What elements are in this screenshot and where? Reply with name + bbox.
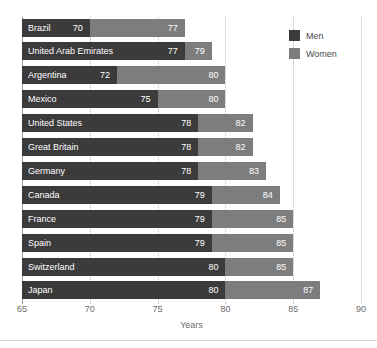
value-label-men: 77 xyxy=(168,42,178,60)
bar-row[interactable]: Argentina7280 xyxy=(22,65,361,89)
bar-stack: Spain7985 xyxy=(22,234,361,252)
bar-row[interactable]: Switzerland8085 xyxy=(22,256,361,280)
country-label: Spain xyxy=(28,234,51,252)
bar-stack: Canada7984 xyxy=(22,186,361,204)
legend-item-men[interactable]: Men xyxy=(289,28,359,43)
country-label: Japan xyxy=(28,281,53,299)
value-label-women: 87 xyxy=(303,281,313,299)
x-tick-label: 70 xyxy=(85,304,95,314)
country-label: Great Britain xyxy=(28,138,79,156)
value-label-men: 79 xyxy=(195,210,205,228)
bar-stack: United States7882 xyxy=(22,114,361,132)
value-label-women: 85 xyxy=(276,258,286,276)
value-label-men: 79 xyxy=(195,234,205,252)
value-label-women: 82 xyxy=(236,138,246,156)
value-label-women: 84 xyxy=(263,186,273,204)
bar-stack: Great Britain7882 xyxy=(22,138,361,156)
bar-chart: Brazil7077United Arab Emirates7779Argent… xyxy=(0,0,377,348)
gridline-90 xyxy=(361,17,362,304)
bar-row[interactable]: Germany7883 xyxy=(22,160,361,184)
value-label-women: 83 xyxy=(249,162,259,180)
legend-swatch-women xyxy=(289,48,300,59)
bar-row[interactable]: France7985 xyxy=(22,208,361,232)
bar-stack: Switzerland8085 xyxy=(22,258,361,276)
bar-stack: Argentina7280 xyxy=(22,66,361,84)
chart-legend: Men Women xyxy=(289,28,359,64)
value-label-women: 82 xyxy=(236,114,246,132)
value-label-men: 80 xyxy=(208,281,218,299)
bar-row[interactable]: Mexico7580 xyxy=(22,89,361,113)
x-tick-label: 75 xyxy=(153,304,163,314)
value-label-women: 77 xyxy=(168,19,178,37)
country-label: Germany xyxy=(28,162,65,180)
bottom-rule xyxy=(0,340,377,341)
bar-row[interactable]: Canada7984 xyxy=(22,184,361,208)
value-label-women: 85 xyxy=(276,234,286,252)
bar-row[interactable]: United States7882 xyxy=(22,113,361,137)
x-tick-label: 65 xyxy=(17,304,27,314)
value-label-men: 70 xyxy=(73,19,83,37)
bar-stack: Mexico7580 xyxy=(22,90,361,108)
value-label-men: 78 xyxy=(181,162,191,180)
legend-label-women: Women xyxy=(306,49,337,59)
bar-stack: Germany7883 xyxy=(22,162,361,180)
x-axis-title: Years xyxy=(22,320,361,330)
value-label-women: 80 xyxy=(208,66,218,84)
legend-item-women[interactable]: Women xyxy=(289,46,359,61)
bar-row[interactable]: Japan8087 xyxy=(22,280,361,304)
country-label: Canada xyxy=(28,186,60,204)
bar-row[interactable]: Great Britain7882 xyxy=(22,137,361,161)
value-label-women: 85 xyxy=(276,210,286,228)
value-label-men: 79 xyxy=(195,186,205,204)
country-label: United States xyxy=(28,114,82,132)
value-label-men: 75 xyxy=(141,90,151,108)
country-label: France xyxy=(28,210,56,228)
value-label-women: 79 xyxy=(195,42,205,60)
bar-stack: Japan8087 xyxy=(22,281,361,299)
legend-label-men: Men xyxy=(306,31,324,41)
country-label: Argentina xyxy=(28,66,67,84)
bar-stack: France7985 xyxy=(22,210,361,228)
x-tick-label: 85 xyxy=(288,304,298,314)
bar-row[interactable]: Spain7985 xyxy=(22,232,361,256)
value-label-men: 78 xyxy=(181,114,191,132)
x-tick-label: 80 xyxy=(220,304,230,314)
value-label-men: 72 xyxy=(100,66,110,84)
country-label: Mexico xyxy=(28,90,57,108)
value-label-men: 78 xyxy=(181,138,191,156)
value-label-men: 80 xyxy=(208,258,218,276)
country-label: Brazil xyxy=(28,19,51,37)
value-label-women: 80 xyxy=(208,90,218,108)
x-tick-label: 90 xyxy=(356,304,366,314)
country-label: Switzerland xyxy=(28,258,75,276)
country-label: United Arab Emirates xyxy=(28,42,113,60)
legend-swatch-men xyxy=(289,30,300,41)
